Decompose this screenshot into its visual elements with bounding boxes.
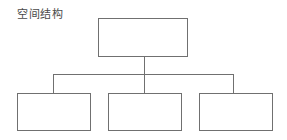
diagram-title: 空间结构 bbox=[17, 5, 63, 21]
child-3-connector bbox=[233, 74, 234, 94]
root-node-box bbox=[98, 18, 188, 57]
child-node-box-1 bbox=[17, 93, 91, 131]
child-2-connector bbox=[144, 74, 145, 94]
child-node-box-3 bbox=[199, 93, 273, 131]
child-node-box-2 bbox=[108, 93, 182, 131]
child-1-connector bbox=[53, 74, 54, 94]
root-connector-vertical bbox=[144, 56, 145, 75]
